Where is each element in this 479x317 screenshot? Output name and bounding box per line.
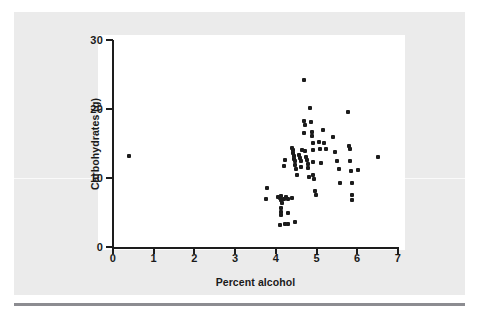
data-point — [311, 141, 315, 145]
data-point — [278, 223, 282, 227]
data-point — [264, 197, 268, 201]
y-tick-mark — [106, 39, 113, 41]
data-point — [317, 140, 321, 144]
x-tick-label: 2 — [191, 252, 197, 264]
data-point — [350, 198, 354, 202]
data-point — [309, 120, 313, 124]
data-point — [286, 211, 290, 215]
data-point — [306, 162, 310, 166]
data-point — [302, 78, 306, 82]
x-tick-label: 1 — [151, 252, 157, 264]
data-point — [265, 186, 269, 190]
data-point — [346, 110, 350, 114]
data-point — [311, 148, 315, 152]
data-point — [335, 159, 339, 163]
data-point — [310, 134, 314, 138]
page-bottom-rule — [14, 303, 465, 306]
data-point — [338, 181, 342, 185]
data-point — [293, 220, 297, 224]
x-tick-label: 0 — [110, 252, 116, 264]
y-axis-line — [112, 40, 114, 248]
y-axis-title: Carbohydrates (g) — [89, 97, 101, 189]
data-point — [331, 135, 335, 139]
y-tick-label: 30 — [90, 34, 103, 46]
x-tick-label: 3 — [232, 252, 238, 264]
data-point — [314, 193, 318, 197]
data-point — [303, 149, 307, 153]
y-tick-label: 0 — [97, 241, 103, 253]
scatter-plot: 0102030 01234567 Carbohydrates (g) Perce… — [113, 40, 398, 247]
data-point — [295, 173, 299, 177]
data-point — [290, 196, 294, 200]
data-point — [303, 123, 307, 127]
data-point — [127, 154, 131, 158]
data-point — [376, 155, 380, 159]
data-point — [321, 128, 325, 132]
data-point — [348, 147, 352, 151]
figure-page: 0102030 01234567 Carbohydrates (g) Perce… — [0, 0, 479, 317]
data-point — [337, 167, 341, 171]
data-point — [308, 106, 312, 110]
data-point — [318, 147, 322, 151]
data-point — [312, 177, 316, 181]
data-point — [280, 201, 284, 205]
x-tick-label: 6 — [354, 252, 360, 264]
x-tick-label: 5 — [313, 252, 319, 264]
data-point — [311, 160, 315, 164]
data-point — [350, 193, 354, 197]
data-point — [286, 222, 290, 226]
data-point — [299, 165, 303, 169]
data-point — [356, 168, 360, 172]
data-point — [306, 166, 310, 170]
data-point — [279, 213, 283, 217]
data-point — [324, 147, 328, 151]
data-point — [319, 161, 323, 165]
data-point — [349, 169, 353, 173]
data-point — [282, 164, 286, 168]
data-point — [333, 150, 337, 154]
data-point — [322, 141, 326, 145]
y-tick-mark — [106, 108, 113, 110]
data-point — [294, 167, 298, 171]
x-tick-label: 7 — [395, 252, 401, 264]
data-point — [283, 158, 287, 162]
data-point — [350, 181, 354, 185]
data-point — [348, 159, 352, 163]
x-tick-label: 4 — [273, 252, 279, 264]
y-tick-mark — [106, 177, 113, 179]
x-axis-title: Percent alcohol — [113, 276, 398, 288]
data-point — [299, 159, 303, 163]
data-point — [302, 131, 306, 135]
